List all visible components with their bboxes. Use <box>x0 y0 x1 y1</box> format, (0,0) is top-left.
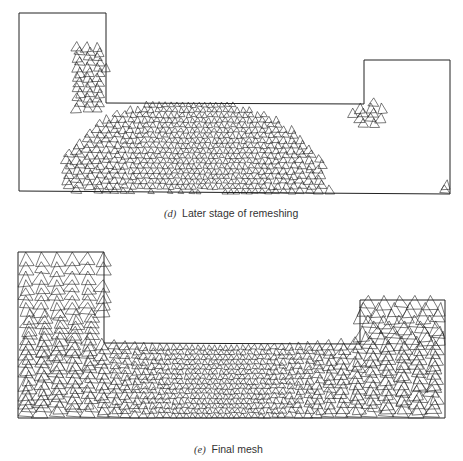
caption-e-label: (e) <box>194 444 206 455</box>
caption-e-title: Final mesh <box>212 443 263 455</box>
caption-d-label: (d) <box>164 208 176 219</box>
caption-d: (d) Later stage of remeshing <box>164 207 298 219</box>
caption-e: (e) Final mesh <box>194 443 263 455</box>
caption-d-title: Later stage of remeshing <box>182 207 298 219</box>
final-mesh-diagram <box>18 252 445 418</box>
mesh-figure-canvas <box>0 0 463 461</box>
partial-remesh-diagram <box>19 13 450 194</box>
